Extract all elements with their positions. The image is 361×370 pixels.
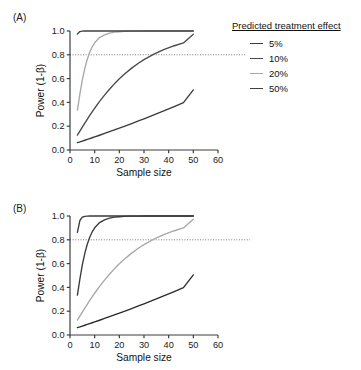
panel-b-plot: 0.00.20.40.60.81.00102030405060Sample si… [0, 185, 361, 370]
legend-item-label: 5% [269, 39, 283, 49]
x-tick-label: 60 [213, 340, 223, 350]
series-line-10% [77, 34, 193, 135]
y-tick-label: 0.6 [52, 74, 65, 84]
y-tick-label: 1.0 [52, 211, 65, 221]
y-tick-label: 0.6 [52, 259, 65, 269]
y-axis-title: Power (1-β) [35, 249, 46, 302]
series-line-160 [77, 275, 193, 328]
x-tick-label: 20 [114, 340, 124, 350]
x-axis-title: Sample size [116, 167, 172, 178]
y-tick-label: 0.0 [52, 145, 65, 155]
legend-swatch-icon [250, 58, 263, 59]
x-tick-label: 30 [139, 340, 149, 350]
power-analysis-figure: (A) 0.00.20.40.60.81.00102030405060Sampl… [0, 0, 361, 370]
panel-b: (B) 0.00.20.40.60.81.00102030405060Sampl… [0, 185, 361, 370]
series-line-40 [77, 216, 193, 295]
y-tick-label: 0.2 [52, 121, 65, 131]
x-axis-title: Sample size [116, 352, 172, 363]
y-tick-label: 0.0 [52, 330, 65, 340]
panel-a-legend: Predicted treatment effect 5%10%20%50% [232, 20, 341, 96]
y-tick-label: 0.8 [52, 235, 65, 245]
x-tick-label: 10 [90, 155, 100, 165]
x-tick-label: 40 [164, 155, 174, 165]
legend-item[interactable]: 20% [250, 66, 341, 81]
x-tick-label: 0 [67, 340, 72, 350]
series-line-20% [77, 31, 193, 110]
legend-item-label: 50% [269, 84, 288, 94]
series-line-80 [77, 219, 193, 320]
legend-item[interactable]: 5% [250, 36, 341, 51]
y-tick-label: 0.4 [52, 98, 65, 108]
series-line-50% [77, 31, 193, 34]
x-tick-label: 40 [164, 340, 174, 350]
legend-swatch-icon [250, 88, 263, 89]
legend-item[interactable]: 50% [250, 81, 341, 96]
legend-items: 5%10%20%50% [250, 36, 341, 96]
x-tick-label: 50 [188, 340, 198, 350]
y-tick-label: 0.2 [52, 306, 65, 316]
x-tick-label: 30 [139, 155, 149, 165]
legend-item-label: 10% [269, 54, 288, 64]
y-tick-label: 0.8 [52, 50, 65, 60]
legend-swatch-icon [250, 73, 263, 74]
legend-title: Predicted treatment effect [232, 20, 341, 31]
legend-item[interactable]: 10% [250, 51, 341, 66]
legend-swatch-icon [250, 43, 263, 44]
legend-item-label: 20% [269, 69, 288, 79]
series-line-5% [77, 90, 193, 143]
y-axis-title: Power (1-β) [35, 64, 46, 117]
y-tick-label: 1.0 [52, 26, 65, 36]
y-tick-label: 0.4 [52, 283, 65, 293]
x-tick-label: 20 [114, 155, 124, 165]
x-tick-label: 10 [90, 340, 100, 350]
x-tick-label: 60 [213, 155, 223, 165]
x-tick-label: 50 [188, 155, 198, 165]
panel-a: (A) 0.00.20.40.60.81.00102030405060Sampl… [0, 0, 361, 185]
x-tick-label: 0 [67, 155, 72, 165]
